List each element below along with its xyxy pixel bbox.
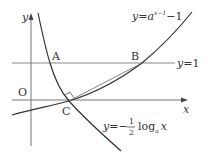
y-axis-arrow-icon — [29, 13, 34, 20]
log-curve-label: y=− — [102, 120, 128, 133]
log-frac-num: 1 — [129, 117, 134, 126]
log-frac-den: 2 — [129, 128, 134, 137]
x-axis-label: x — [183, 103, 190, 116]
log-text: logax — [138, 120, 168, 134]
exp-curve-label: y=ax−1−1 — [131, 9, 182, 23]
x-axis-arrow-icon — [181, 98, 188, 103]
point-a-label: A — [51, 50, 61, 63]
point-b-label: B — [131, 50, 139, 63]
origin-label: O — [18, 86, 27, 99]
point-c-label: C — [62, 105, 70, 118]
chord-c-b — [69, 63, 142, 101]
horizontal-line-label: yy=1=1 — [176, 57, 199, 70]
diagram-canvas: y x O A B C yy=1=1 y=ax−1−1 y=− 1 2 loga… — [0, 0, 212, 162]
y-axis-label: y — [21, 11, 29, 24]
